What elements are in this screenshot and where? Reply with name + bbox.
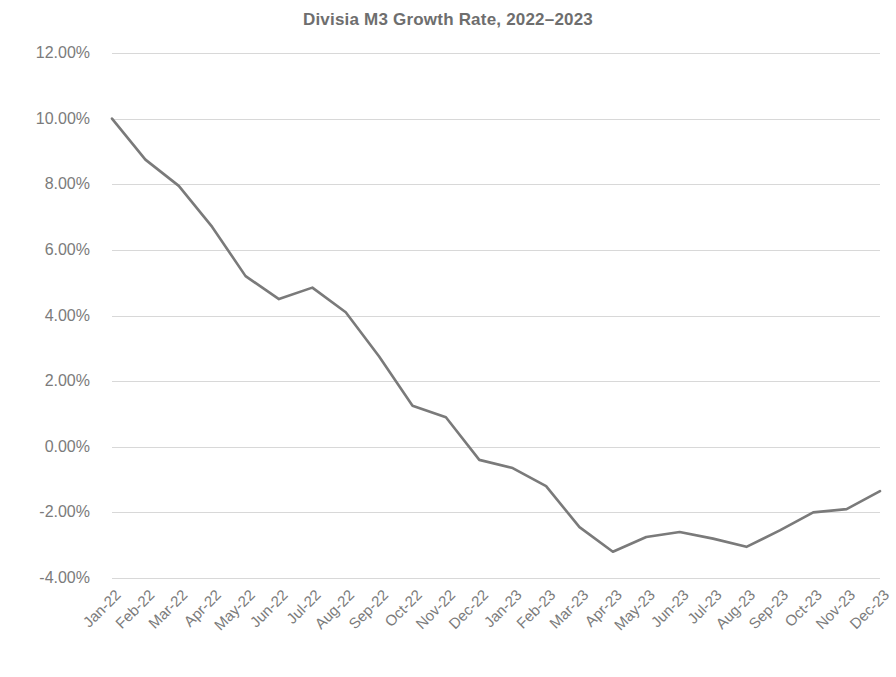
chart-container: Divisia M3 Growth Rate, 2022–2023 12.00%… xyxy=(0,0,896,677)
x-axis-labels: Jan-22Feb-22Mar-22Apr-22May-22Jun-22Jul-… xyxy=(112,578,880,673)
y-axis-tick-label: 4.00% xyxy=(0,307,90,325)
y-axis-tick-label: 2.00% xyxy=(0,372,90,390)
y-axis-tick-label: 8.00% xyxy=(0,175,90,193)
chart-title: Divisia M3 Growth Rate, 2022–2023 xyxy=(0,10,896,30)
y-axis-labels: 12.00%10.00%8.00%6.00%4.00%2.00%0.00%-2.… xyxy=(112,53,880,578)
y-axis-tick-label: 10.00% xyxy=(0,110,90,128)
y-axis-tick-label: 0.00% xyxy=(0,438,90,456)
y-axis-tick-label: -2.00% xyxy=(0,503,90,521)
y-axis-tick-label: 12.00% xyxy=(0,44,90,62)
y-axis-tick-label: 6.00% xyxy=(0,241,90,259)
x-axis-tick-label: Jun-23 xyxy=(647,586,691,630)
y-axis-tick-label: -4.00% xyxy=(0,569,90,587)
